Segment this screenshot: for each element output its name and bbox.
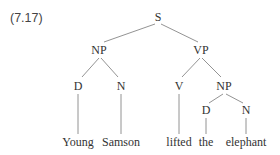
leaf-word: Young	[62, 135, 93, 149]
tree-edge	[202, 58, 221, 77]
tree-node-n1: N	[117, 79, 126, 93]
tree-edge	[161, 24, 198, 42]
tree-node-n2: N	[242, 103, 251, 117]
tree-node-np1: NP	[91, 43, 107, 57]
syntax-tree: (7.17) SNPVPDNVNPDN YoungSamsonliftedthe…	[0, 0, 280, 155]
tree-node-s: S	[155, 10, 162, 24]
tree-leaves: YoungSamsonliftedtheelephant	[62, 135, 267, 149]
tree-node-vp: VP	[193, 43, 209, 57]
leaf-word: the	[199, 135, 214, 149]
tree-edge	[209, 94, 223, 103]
leaf-word: lifted	[166, 135, 191, 149]
leaf-word: elephant	[226, 135, 267, 149]
tree-edge	[226, 94, 243, 103]
tree-edge	[182, 58, 200, 77]
tree-edge	[82, 58, 99, 77]
tree-nodes: SNPVPDNVNPDN	[74, 10, 251, 117]
tree-node-np2: NP	[216, 79, 232, 93]
tree-node-d1: D	[74, 79, 83, 93]
leaf-word: Samson	[102, 135, 140, 149]
tree-node-d2: D	[202, 103, 211, 117]
tree-edge	[104, 24, 155, 42]
example-number: (7.17)	[10, 11, 43, 25]
tree-node-v: V	[175, 79, 184, 93]
tree-edge	[101, 58, 118, 77]
